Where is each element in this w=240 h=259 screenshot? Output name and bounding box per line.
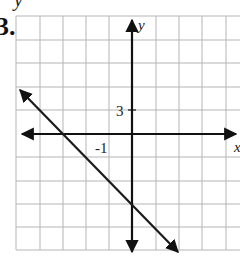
x-tick-label: -1 [95, 140, 108, 156]
y-tick-label: 3 [116, 103, 124, 119]
y-axis-label: y [136, 17, 145, 33]
axes [22, 20, 236, 252]
graphed-line [20, 90, 178, 252]
coordinate-plane: 3 -1 y x [0, 0, 240, 259]
x-axis-label: x [233, 139, 240, 155]
